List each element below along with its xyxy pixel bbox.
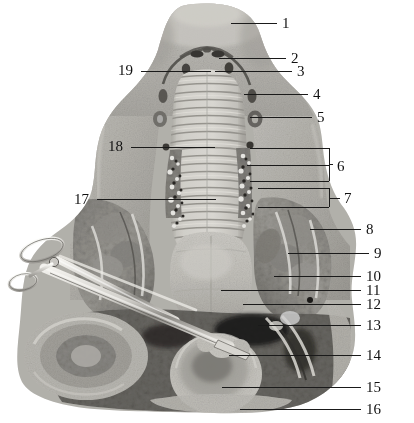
label-number-17: 17 [74,192,89,207]
label-number-9: 9 [374,246,382,261]
leader-line-15 [222,387,361,388]
label-number-5: 5 [317,110,325,125]
leader-line-7 [258,207,329,208]
leader-line-3 [215,71,292,72]
leader-line-4 [244,94,308,95]
label-number-8: 8 [366,222,374,237]
specimen-photograph [0,0,414,423]
leader-line-6 [250,148,329,149]
leader-line-19 [141,71,211,72]
leader-line-1 [231,23,277,24]
label-number-6: 6 [337,159,345,174]
label-number-1: 1 [282,16,290,31]
leader-line-17 [97,199,216,200]
label-number-3: 3 [297,64,305,79]
label-number-4: 4 [313,87,321,102]
label-number-14: 14 [366,348,381,363]
label-number-18: 18 [108,139,123,154]
leader-line-6 [247,165,329,166]
anatomical-figure: 12345891011121314151619181767 [0,0,414,423]
leader-line-6 [250,181,329,182]
label-number-7: 7 [344,191,352,206]
leader-line-8 [310,229,361,230]
label-number-15: 15 [366,380,381,395]
leader-line-12 [243,304,361,305]
leader-line-13 [258,325,361,326]
leader-line-6-stem [329,164,333,165]
label-number-16: 16 [366,402,381,417]
leader-line-18 [131,147,215,148]
leader-line-16 [240,409,361,410]
label-number-12: 12 [366,297,381,312]
label-number-19: 19 [118,63,133,78]
leader-line-11 [221,290,361,291]
leader-line-7-stem [329,198,340,199]
leader-line-2 [219,58,286,59]
leader-line-14 [229,355,361,356]
leader-line-5 [250,117,312,118]
leader-line-10 [274,276,361,277]
leader-line-9 [288,253,369,254]
leader-line-7 [258,188,329,189]
label-number-13: 13 [366,318,381,333]
